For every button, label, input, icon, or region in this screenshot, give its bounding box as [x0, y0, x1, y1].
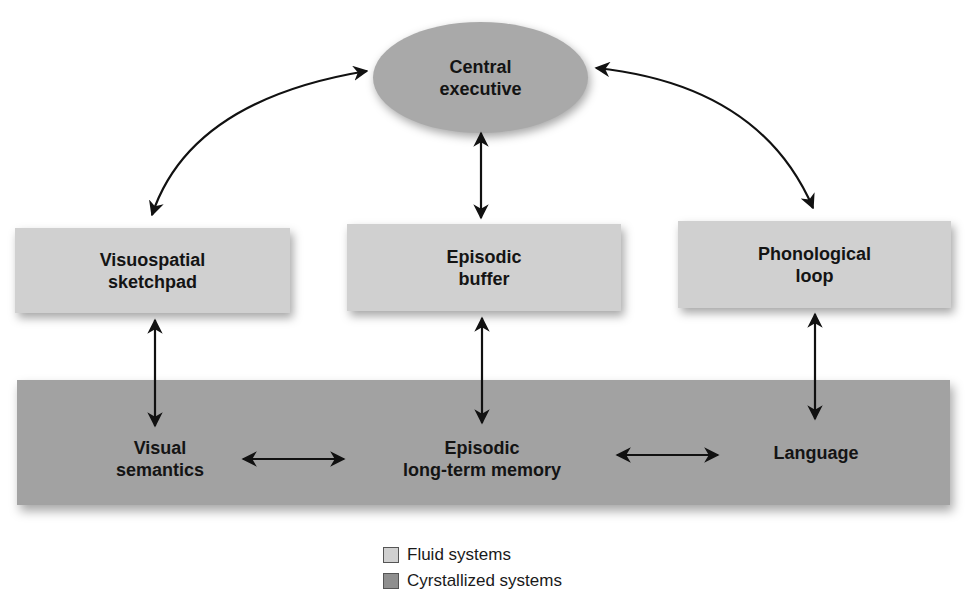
visual-semantics-label-1: Visual — [134, 437, 187, 459]
episodic-buffer-node: Episodic buffer — [347, 224, 621, 311]
episodic-ltm-label-2: long-term memory — [403, 459, 561, 481]
legend-label-fluid: Fluid systems — [407, 545, 511, 565]
legend-item-crystallized: Cyrstallized systems — [383, 568, 562, 594]
episodic-buffer-label-2: buffer — [459, 268, 510, 290]
fluid-swatch-icon — [383, 547, 399, 563]
phonological-label-1: Phonological — [758, 243, 871, 265]
visuospatial-label-2: sketchpad — [108, 271, 197, 293]
episodic-ltm-label-1: Episodic — [444, 437, 519, 459]
phonological-loop-node: Phonological loop — [678, 221, 951, 308]
arrow-central-phonological — [596, 68, 813, 208]
episodic-ltm-node: Episodic long-term memory — [403, 437, 561, 481]
legend-label-crystallized: Cyrstallized systems — [407, 571, 562, 591]
language-node: Language — [773, 442, 858, 464]
arrow-central-visuospatial — [152, 71, 367, 215]
episodic-buffer-label-1: Episodic — [446, 246, 521, 268]
central-executive-label-2: executive — [439, 78, 521, 100]
central-executive-label-1: Central — [449, 56, 511, 78]
crystallized-swatch-icon — [383, 573, 399, 589]
visual-semantics-node: Visual semantics — [116, 437, 204, 481]
visual-semantics-label-2: semantics — [116, 459, 204, 481]
visuospatial-label-1: Visuospatial — [100, 249, 206, 271]
visuospatial-sketchpad-node: Visuospatial sketchpad — [15, 228, 290, 313]
phonological-label-2: loop — [796, 265, 834, 287]
language-label: Language — [773, 442, 858, 464]
legend: Fluid systems Cyrstallized systems — [383, 542, 562, 594]
central-executive-node: Central executive — [373, 22, 588, 133]
legend-item-fluid: Fluid systems — [383, 542, 562, 568]
